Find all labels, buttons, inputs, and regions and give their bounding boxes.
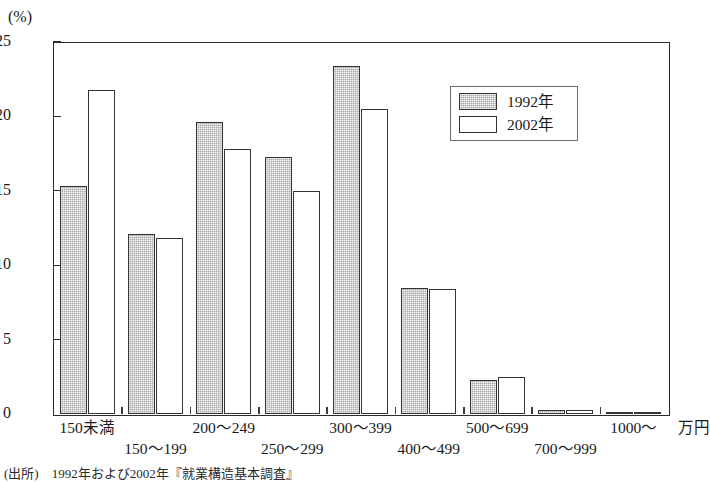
- legend-swatch-2002-icon: [459, 116, 497, 133]
- source-note: (出所) 1992年および2002年『就業構造基本調査』: [4, 466, 299, 482]
- x-axis-label: 500〜699: [466, 418, 529, 438]
- y-axis-tick-label: 25: [0, 31, 11, 51]
- legend-label-1992: 1992年: [507, 91, 554, 112]
- x-axis-label: 200〜249: [193, 418, 256, 438]
- x-axis-labels: 150未満150〜199200〜249250〜299300〜399400〜499…: [0, 418, 682, 464]
- y-axis-unit-label: (%): [8, 8, 32, 26]
- y-axis-tick-label: 15: [0, 180, 11, 200]
- x-axis-label: 300〜399: [329, 418, 392, 438]
- y-axis-tick-label: 20: [0, 105, 11, 125]
- legend-swatch-1992-icon: [459, 93, 497, 110]
- legend-label-2002: 2002年: [507, 114, 554, 135]
- bar-1992: [606, 412, 633, 415]
- legend: 1992年 2002年: [450, 86, 578, 141]
- x-axis-unit-label: 万円: [678, 418, 710, 438]
- x-axis-label: 150〜199: [124, 439, 187, 459]
- x-axis-label: 700〜999: [534, 439, 597, 459]
- x-axis-label: 150未満: [60, 418, 115, 438]
- y-axis-tick-label: 5: [3, 329, 11, 349]
- bar-2002: [634, 412, 661, 415]
- x-axis-label: 1000〜: [610, 418, 657, 438]
- x-axis-label: 250〜299: [261, 439, 324, 459]
- x-axis-label: 400〜499: [398, 439, 461, 459]
- y-axis-tick-label: 10: [0, 254, 11, 274]
- x-axis-tick-mark: [600, 407, 602, 414]
